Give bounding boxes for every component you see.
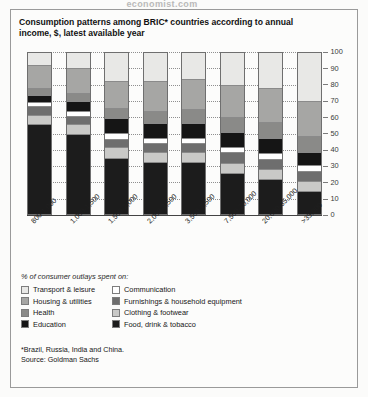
legend-label: Clothing & footwear xyxy=(124,308,189,317)
bar-segment xyxy=(105,119,128,134)
bar-segment xyxy=(144,144,167,153)
legend-label: Education xyxy=(33,320,66,329)
y-axis-tick-label: 0 xyxy=(323,211,363,218)
bar-segment xyxy=(182,153,205,163)
bar-segment xyxy=(298,102,321,137)
bar-segment xyxy=(221,133,244,148)
bar-segment xyxy=(144,53,167,82)
bar-segment xyxy=(298,172,321,182)
legend-label: Transport & leisure xyxy=(33,285,95,294)
bar-segment xyxy=(28,116,51,125)
bar-column[interactable] xyxy=(181,52,206,215)
bar-segment xyxy=(105,148,128,158)
bar-column[interactable] xyxy=(104,52,129,215)
bar-column[interactable] xyxy=(143,52,168,215)
y-axis-tick-label: 40 xyxy=(323,146,363,153)
bar-segment xyxy=(298,153,321,166)
bar-segment xyxy=(221,164,244,174)
bar-segment xyxy=(105,82,128,109)
bar-segment xyxy=(182,124,205,139)
bar-segment xyxy=(298,53,321,102)
legend-item[interactable]: Education xyxy=(21,320,66,329)
bar-segment xyxy=(182,110,205,123)
legend-item[interactable]: Clothing & footwear xyxy=(112,308,189,317)
legend-caption: % of consumer outlays spent on: xyxy=(21,272,341,281)
bar-segment xyxy=(28,96,51,103)
legend-item[interactable]: Health xyxy=(21,308,54,317)
bar-segment xyxy=(221,118,244,133)
bar-segment xyxy=(259,160,282,170)
legend-swatch xyxy=(21,297,29,305)
y-axis-tick-label: 60 xyxy=(323,114,363,121)
bar-segment xyxy=(298,182,321,192)
bar-column[interactable] xyxy=(297,52,322,215)
legend-swatch xyxy=(21,286,29,294)
bar-segment xyxy=(28,66,51,89)
bar-segment xyxy=(105,140,128,149)
bar-segment xyxy=(259,170,282,180)
bar-segment xyxy=(144,124,167,139)
footnote-block: *Brazil, Russia, India and China. Source… xyxy=(21,345,124,364)
legend-swatch xyxy=(21,320,29,328)
bar-segment xyxy=(144,112,167,124)
bar-segment xyxy=(28,89,51,96)
legend-swatch xyxy=(112,320,120,328)
legend-item[interactable]: Furnishings & household equipment xyxy=(112,297,242,306)
legend-swatch xyxy=(112,286,120,294)
bar-segment xyxy=(28,53,51,66)
legend-items: Transport & leisureCommunicationHousing … xyxy=(21,285,341,331)
bar-segment xyxy=(67,117,90,126)
bar-column[interactable] xyxy=(220,52,245,215)
bar-segment xyxy=(105,109,128,119)
y-axis-tick-label: 70 xyxy=(323,97,363,104)
bar-segment xyxy=(221,86,244,118)
bar-segment xyxy=(67,53,90,69)
y-axis-tick-label: 100 xyxy=(323,48,363,55)
bar-segment xyxy=(259,89,282,122)
bar-column[interactable] xyxy=(66,52,91,215)
footnote-text: *Brazil, Russia, India and China. xyxy=(21,345,124,355)
legend-label: Food, drink & tobacco xyxy=(124,320,196,329)
bar-segment xyxy=(144,153,167,163)
bar-series-group xyxy=(27,52,322,215)
bar-column[interactable] xyxy=(258,52,283,215)
bar-segment xyxy=(28,107,51,116)
y-axis-tick-label: 10 xyxy=(323,195,363,202)
legend-item[interactable]: Communication xyxy=(112,285,175,294)
legend-swatch xyxy=(21,309,29,317)
legend-label: Housing & utilities xyxy=(33,297,92,306)
bar-segment xyxy=(221,53,244,86)
legend-swatch xyxy=(112,309,120,317)
bar-segment xyxy=(298,137,321,153)
legend-label: Furnishings & household equipment xyxy=(124,297,242,306)
bar-segment xyxy=(259,123,282,139)
bar-segment xyxy=(259,139,282,154)
y-axis-tick-label: 90 xyxy=(323,65,363,72)
bar-segment xyxy=(182,144,205,153)
y-axis-tick-label: 50 xyxy=(323,130,363,137)
legend-label: Communication xyxy=(124,285,175,294)
bar-column[interactable] xyxy=(27,52,52,215)
chart-title: Consumption patterns among BRIC* countri… xyxy=(19,17,319,40)
bar-segment xyxy=(67,94,90,103)
figure-canvas: economist.com Consumption patterns among… xyxy=(0,0,368,397)
page-header-partial-text: economist.com xyxy=(62,0,262,7)
x-axis-labels: 800-1,0001,000-1,5001,500-2,0002,000-3,5… xyxy=(27,217,327,269)
bar-segment xyxy=(67,102,90,112)
bar-segment xyxy=(67,125,90,135)
bar-segment xyxy=(182,80,205,110)
bar-segment xyxy=(67,69,90,93)
y-axis-tick-label: 80 xyxy=(323,81,363,88)
bar-segment xyxy=(144,82,167,112)
chart-legend: % of consumer outlays spent on: Transpor… xyxy=(21,272,341,331)
bar-segment xyxy=(259,53,282,89)
y-axis-tick-label: 20 xyxy=(323,179,363,186)
plot-area: 0102030405060708090100 xyxy=(27,52,322,215)
legend-label: Health xyxy=(33,308,54,317)
y-axis-tick-label: 30 xyxy=(323,162,363,169)
bar-segment xyxy=(182,53,205,80)
bar-segment xyxy=(221,153,244,163)
legend-item[interactable]: Food, drink & tobacco xyxy=(112,320,196,329)
legend-item[interactable]: Housing & utilities xyxy=(21,297,92,306)
legend-item[interactable]: Transport & leisure xyxy=(21,285,95,294)
